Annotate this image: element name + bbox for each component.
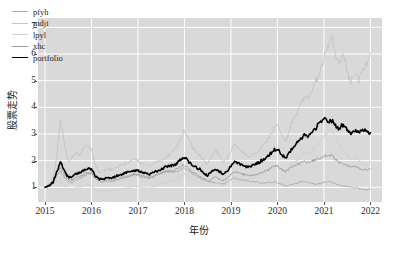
x-tick-label: 2020 xyxy=(268,206,287,216)
plot-svg xyxy=(38,18,382,202)
legend-item-pfyh[interactable]: pfyh xyxy=(12,6,63,18)
x-tick-label: 2022 xyxy=(361,206,380,216)
legend-label: portfolio xyxy=(33,54,63,63)
y-tick-mark xyxy=(34,134,37,135)
plot-area xyxy=(38,18,382,202)
legend-item-mdjt[interactable]: mdjt xyxy=(12,18,63,30)
x-tick-mark xyxy=(91,202,92,205)
y-tick-mark xyxy=(34,161,37,162)
y-tick-mark xyxy=(34,187,37,188)
series-lines xyxy=(45,35,370,192)
x-tick-label: 2016 xyxy=(82,206,101,216)
legend-label: mdjt xyxy=(33,19,49,28)
x-tick-label: 2019 xyxy=(221,206,240,216)
x-tick-label: 2018 xyxy=(175,206,194,216)
legend-item-lpyl[interactable]: lpyl xyxy=(12,29,63,41)
y-tick-mark xyxy=(34,81,37,82)
x-tick-label: 2017 xyxy=(128,206,147,216)
series-line-mdjt xyxy=(45,35,370,187)
legend-item-portfolio[interactable]: portfolio xyxy=(12,52,63,64)
y-tick-mark xyxy=(34,107,37,108)
legend-label: xhc xyxy=(33,42,45,51)
x-tick-mark xyxy=(184,202,185,205)
y-axis-label: 股票走势 xyxy=(4,65,19,155)
legend-swatch-portfolio xyxy=(12,57,28,58)
x-tick-mark xyxy=(370,202,371,205)
legend-swatch-pfyh xyxy=(12,11,28,12)
x-tick-label: 2021 xyxy=(314,206,333,216)
x-tick-mark xyxy=(277,202,278,205)
x-tick-label: 2015 xyxy=(35,206,54,216)
legend-swatch-xhc xyxy=(12,46,28,47)
legend-label: pfyh xyxy=(33,8,49,17)
legend-swatch-mdjt xyxy=(12,23,28,24)
x-axis-label: 年份 xyxy=(0,222,398,237)
x-tick-mark xyxy=(231,202,232,205)
legend: pfyhmdjtlpylxhcportfolio xyxy=(8,4,67,66)
x-tick-mark xyxy=(45,202,46,205)
chart-figure: 1234567 20152016201720182019202020212022… xyxy=(0,0,398,253)
legend-swatch-lpyl xyxy=(12,34,28,35)
x-tick-mark xyxy=(324,202,325,205)
legend-item-xhc[interactable]: xhc xyxy=(12,41,63,53)
x-tick-mark xyxy=(138,202,139,205)
legend-label: lpyl xyxy=(33,31,46,40)
